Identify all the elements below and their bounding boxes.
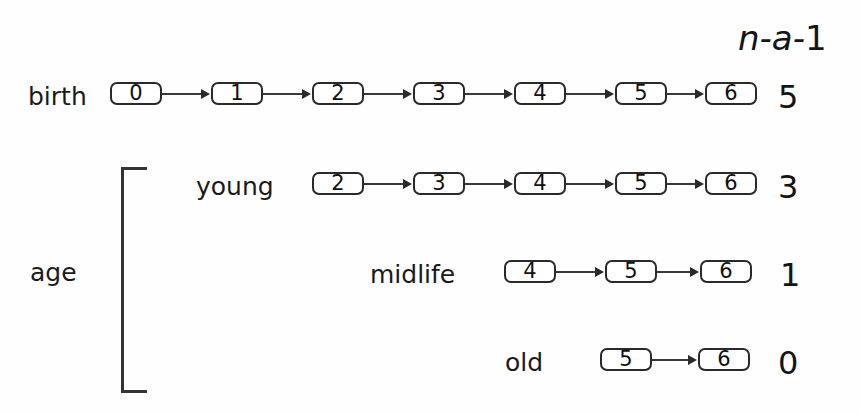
- arrowhead-birth-0: [201, 89, 210, 99]
- header-formula-prefix: n-a-: [738, 18, 805, 58]
- arrowhead-midlife-0: [595, 267, 604, 277]
- node-birth-5: 5: [615, 82, 667, 105]
- row-value-young: 3: [778, 168, 798, 206]
- connector-birth-1: [263, 93, 304, 95]
- node-birth-2: 2: [312, 82, 364, 105]
- node-birth-4: 4: [514, 82, 566, 105]
- arrowhead-young-0: [403, 179, 412, 189]
- connector-birth-0: [162, 93, 203, 95]
- arrowhead-birth-2: [403, 89, 412, 99]
- connector-birth-4: [566, 93, 607, 95]
- node-birth-1: 1: [211, 82, 263, 105]
- chain-old: 5 6: [0, 348, 860, 374]
- connector-birth-5: [667, 93, 697, 95]
- node-young-4: 6: [705, 172, 757, 195]
- node-young-2: 4: [514, 172, 566, 195]
- connector-young-0: [364, 183, 405, 185]
- node-birth-3: 3: [413, 82, 465, 105]
- node-young-3: 5: [615, 172, 667, 195]
- connector-old-0: [652, 359, 690, 361]
- connector-young-1: [465, 183, 506, 185]
- node-midlife-1: 5: [605, 260, 657, 283]
- arrowhead-midlife-1: [690, 267, 699, 277]
- chain-midlife: 4 5 6: [0, 260, 860, 286]
- arrowhead-birth-1: [302, 89, 311, 99]
- connector-birth-2: [364, 93, 405, 95]
- node-old-0: 5: [600, 348, 652, 371]
- arrowhead-birth-5: [695, 89, 704, 99]
- connector-birth-3: [465, 93, 506, 95]
- header-formula-suffix: 1: [805, 18, 827, 58]
- node-old-1: 6: [698, 348, 750, 371]
- row-value-birth: 5: [778, 78, 798, 116]
- connector-young-3: [667, 183, 697, 185]
- arrowhead-young-3: [695, 179, 704, 189]
- connector-midlife-1: [657, 271, 692, 273]
- chain-young: 2 3 4 5 6: [0, 172, 860, 198]
- diagram-canvas: n-a-1 age birth 0 1 2 3 4 5 6 5 young 2 …: [0, 0, 860, 413]
- node-birth-0: 0: [110, 82, 162, 105]
- node-midlife-0: 4: [504, 260, 556, 283]
- arrowhead-young-1: [504, 179, 513, 189]
- node-young-1: 3: [413, 172, 465, 195]
- arrowhead-young-2: [605, 179, 614, 189]
- node-birth-6: 6: [705, 82, 757, 105]
- node-young-0: 2: [312, 172, 364, 195]
- node-midlife-2: 6: [700, 260, 752, 283]
- arrowhead-birth-3: [504, 89, 513, 99]
- row-value-midlife: 1: [780, 256, 800, 294]
- header-formula: n-a-1: [738, 18, 827, 58]
- connector-young-2: [566, 183, 607, 185]
- chain-birth: 0 1 2 3 4 5 6: [0, 82, 860, 108]
- row-value-old: 0: [778, 344, 798, 382]
- connector-midlife-0: [556, 271, 597, 273]
- arrowhead-old-0: [688, 355, 697, 365]
- arrowhead-birth-4: [605, 89, 614, 99]
